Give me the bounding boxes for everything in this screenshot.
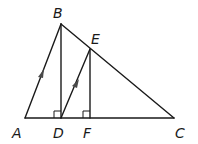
label-a: A <box>11 125 22 141</box>
label-b: B <box>53 5 63 21</box>
label-f: F <box>83 125 92 141</box>
label-d: D <box>53 125 64 141</box>
geometry-diagram: A B C D E F <box>0 0 198 144</box>
parallel-arrow-de-icon <box>72 79 79 88</box>
label-e: E <box>91 31 100 47</box>
segment-bc <box>61 24 174 118</box>
right-angle-mark-d <box>54 111 61 118</box>
parallel-arrow-ab-icon <box>38 69 44 78</box>
right-angle-mark-f <box>83 111 90 118</box>
label-c: C <box>175 125 185 141</box>
